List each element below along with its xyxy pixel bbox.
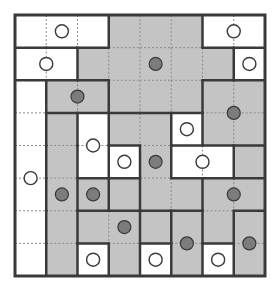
grid-cell[interactable]: [109, 80, 141, 113]
open-circle-icon[interactable]: [196, 155, 209, 168]
grid-cell[interactable]: [140, 15, 172, 48]
open-circle-icon[interactable]: [87, 253, 100, 266]
filled-circle-icon[interactable]: [55, 188, 68, 201]
open-circle-icon[interactable]: [87, 139, 100, 152]
grid-cell[interactable]: [46, 146, 78, 179]
grid-cell[interactable]: [203, 211, 235, 244]
grid-cell[interactable]: [15, 211, 47, 244]
grid-cell[interactable]: [140, 113, 172, 146]
open-circle-icon[interactable]: [212, 253, 225, 266]
grid-cell[interactable]: [78, 211, 110, 244]
open-circle-icon[interactable]: [118, 155, 131, 168]
open-circle-icon[interactable]: [243, 57, 256, 70]
filled-circle-icon[interactable]: [227, 188, 240, 201]
filled-circle-icon[interactable]: [71, 90, 84, 103]
grid-cell[interactable]: [171, 15, 203, 48]
grid-cell[interactable]: [15, 15, 47, 48]
grid-cell[interactable]: [171, 178, 203, 211]
grid-cell[interactable]: [46, 113, 78, 146]
filled-circle-icon[interactable]: [149, 57, 162, 70]
grid-cell[interactable]: [46, 243, 78, 276]
filled-circle-icon[interactable]: [149, 155, 162, 168]
open-circle-icon[interactable]: [180, 123, 193, 136]
grid-cell[interactable]: [171, 48, 203, 81]
grid-cell[interactable]: [109, 113, 141, 146]
filled-circle-icon[interactable]: [118, 221, 131, 234]
open-circle-icon[interactable]: [149, 253, 162, 266]
filled-circle-icon[interactable]: [180, 237, 193, 250]
grid-cell[interactable]: [78, 48, 110, 81]
open-circle-icon[interactable]: [55, 25, 68, 38]
filled-circle-icon[interactable]: [87, 188, 100, 201]
grid-cell[interactable]: [203, 48, 235, 81]
grid-cell[interactable]: [15, 113, 47, 146]
filled-circle-icon[interactable]: [243, 237, 256, 250]
grid-cell[interactable]: [234, 146, 266, 179]
open-circle-icon[interactable]: [40, 57, 53, 70]
grid-cell[interactable]: [171, 80, 203, 113]
grid-cell[interactable]: [78, 15, 110, 48]
grid-cell[interactable]: [109, 48, 141, 81]
puzzle-grid[interactable]: [15, 15, 265, 276]
grid-cell[interactable]: [109, 178, 141, 211]
open-circle-icon[interactable]: [227, 25, 240, 38]
grid-cell[interactable]: [140, 211, 172, 244]
grid-cell[interactable]: [109, 243, 141, 276]
grid-cell[interactable]: [15, 80, 47, 113]
puzzle-board[interactable]: [15, 15, 265, 276]
grid-cell[interactable]: [15, 243, 47, 276]
grid-cell[interactable]: [140, 80, 172, 113]
filled-circle-icon[interactable]: [227, 106, 240, 119]
grid-cell[interactable]: [140, 178, 172, 211]
open-circle-icon[interactable]: [24, 172, 37, 185]
grid-cell[interactable]: [46, 211, 78, 244]
grid-cell[interactable]: [109, 15, 141, 48]
